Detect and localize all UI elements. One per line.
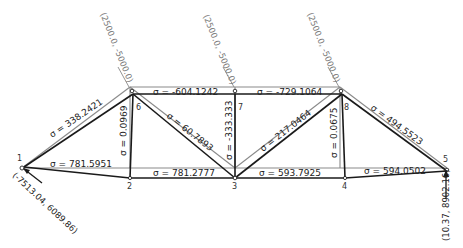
stress-label-2-6: σ = 0.0969 <box>118 105 129 156</box>
stress-label-8-5: σ = 494.5523 <box>369 103 425 147</box>
node-4-marker <box>343 176 346 179</box>
truss-diagram: (2500.0, -5000.0) (2500.0, -5000.0) (250… <box>0 0 463 248</box>
node-3-marker <box>233 176 237 180</box>
stress-label-7-3: σ = -333.333 <box>224 101 234 160</box>
reaction-label-5: (10.37, 8902.16) <box>441 169 451 241</box>
node-label-8: 8 <box>344 103 349 112</box>
stress-label-4-8: σ = 0.0675 <box>329 108 339 158</box>
node-7-marker <box>233 89 237 93</box>
member-6-3 <box>133 94 235 178</box>
node-2-marker <box>128 176 131 179</box>
stress-label-4-5: σ = 594.0502 <box>364 166 426 176</box>
node-8-marker <box>339 89 343 93</box>
node-label-7: 7 <box>238 103 243 112</box>
support-reactions: (-7513.04, 6089.86) (10.37, 8902.16) <box>11 168 451 241</box>
load-label-8: (2500.0, -5000.0) <box>305 11 342 84</box>
stress-label-3-4: σ = 593.7925 <box>259 168 321 178</box>
stress-label-6-7: σ = -604.1242 <box>153 87 218 97</box>
node-label-6: 6 <box>136 103 141 112</box>
truss-svg: (2500.0, -5000.0) (2500.0, -5000.0) (250… <box>0 0 463 248</box>
node-1-marker <box>20 166 24 170</box>
stress-label-6-3: σ = 60.7893 <box>165 111 215 153</box>
stress-label-7-8: σ = -729.1064 <box>257 87 322 97</box>
reaction-label-1: (-7513.04, 6089.86) <box>11 170 80 236</box>
node-label-4: 4 <box>342 182 347 191</box>
member-3-8 <box>235 94 342 178</box>
applied-loads: (2500.0, -5000.0) (2500.0, -5000.0) (250… <box>98 11 342 87</box>
stress-labels: σ = 338.2421 σ = 781.5951 σ = 0.0969 σ =… <box>48 87 426 178</box>
orig-member-1-6 <box>22 87 130 168</box>
member-8-5 <box>342 94 447 171</box>
load-label-7: (2500.0, -5000.0) <box>201 13 238 86</box>
node-label-3: 3 <box>232 182 237 191</box>
load-label-6: (2500.0, -5000.0) <box>98 11 135 84</box>
node-label-2: 2 <box>127 182 132 191</box>
node-label-5: 5 <box>443 155 448 164</box>
stress-label-3-8: σ = 217.0464 <box>258 107 313 153</box>
stress-label-2-3: σ = 781.2777 <box>153 168 215 178</box>
stress-label-1-2: σ = 781.5951 <box>50 159 112 169</box>
member-1-6 <box>24 94 133 167</box>
node-6-marker <box>130 89 134 93</box>
node-label-1: 1 <box>17 154 22 163</box>
